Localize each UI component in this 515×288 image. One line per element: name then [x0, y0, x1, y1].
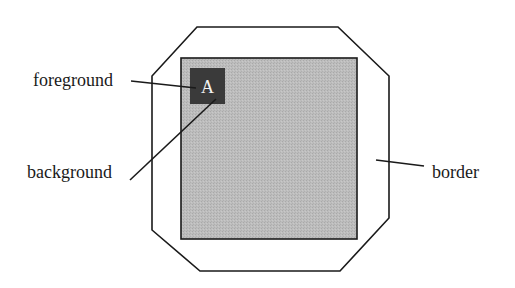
border-label: border — [432, 162, 479, 182]
background-label: background — [27, 162, 112, 182]
widget-anatomy-diagram: A foreground background border — [0, 0, 515, 288]
foreground-glyph: A — [201, 77, 214, 97]
foreground-label: foreground — [33, 70, 113, 90]
